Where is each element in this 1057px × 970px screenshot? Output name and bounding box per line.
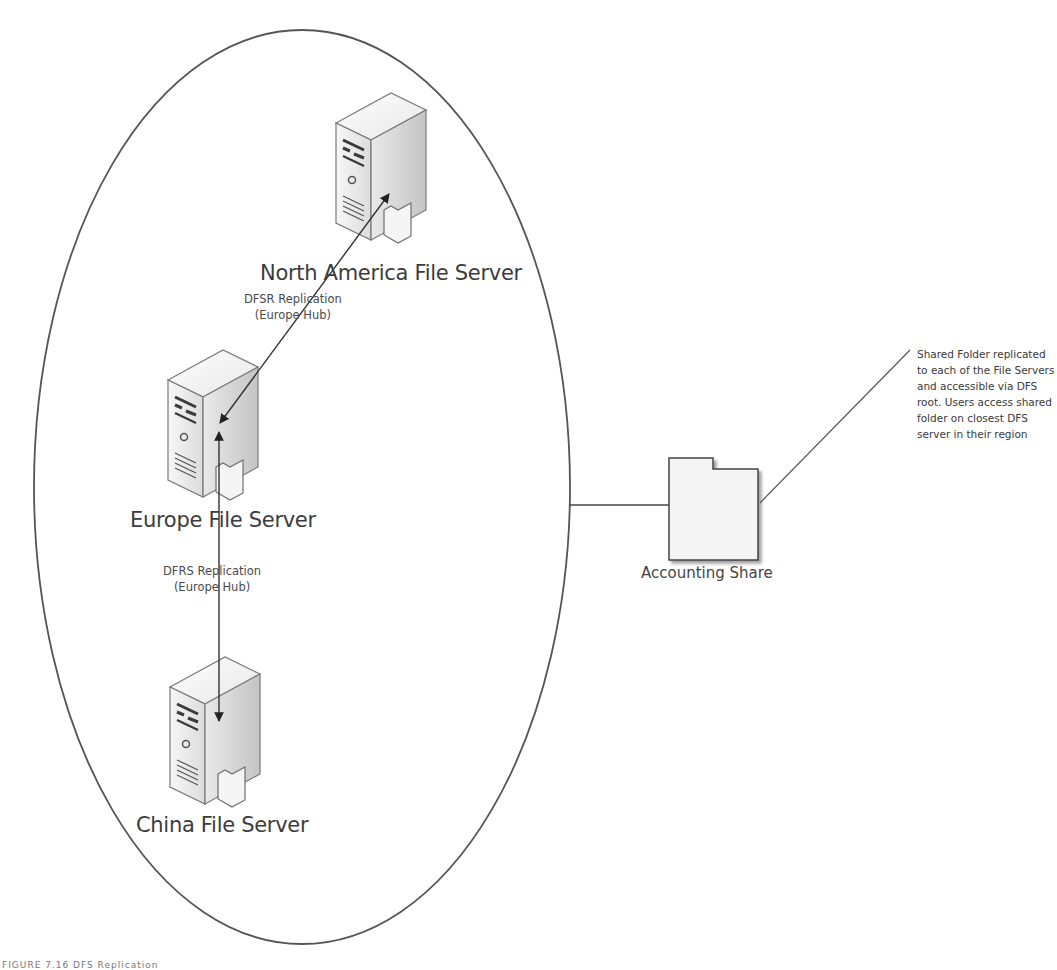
europe-server-icon xyxy=(168,350,258,500)
replication-label-line2: (Europe Hub) xyxy=(244,307,342,323)
annotation-callout-line xyxy=(760,350,910,503)
replication-label-line1: DFRS Replication xyxy=(163,563,261,579)
folder-icon xyxy=(669,458,758,560)
replication-label-line1: DFSR Replication xyxy=(244,291,342,307)
accounting-share-label: Accounting Share xyxy=(641,564,773,582)
north-america-server-label: North America File Server xyxy=(260,261,522,285)
north-america-server-icon xyxy=(336,93,426,243)
replication-label-europe-china: DFRS Replication (Europe Hub) xyxy=(163,563,261,595)
china-server-label: China File Server xyxy=(136,813,308,837)
replication-label-europe-na: DFSR Replication (Europe Hub) xyxy=(244,291,342,323)
figure-caption: FIGURE 7.16 DFS Replication xyxy=(2,960,158,970)
china-server-icon xyxy=(170,657,260,807)
replication-label-line2: (Europe Hub) xyxy=(163,579,261,595)
annotation-note: Shared Folder replicated to each of the … xyxy=(917,346,1055,442)
replication-group-ellipse xyxy=(34,30,570,944)
europe-server-label: Europe File Server xyxy=(130,508,316,532)
